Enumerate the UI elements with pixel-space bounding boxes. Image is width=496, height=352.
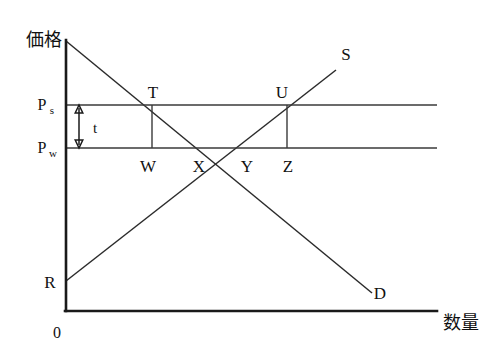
supply-curve-label: S: [341, 45, 350, 64]
tax-arrow: [75, 105, 83, 148]
price-label-pw-subscript: w: [49, 147, 57, 159]
point-label-z: Z: [283, 157, 293, 176]
supply-demand-diagram: 価格 数量 0 P s P w t D S T U R W X Y Z: [0, 0, 496, 352]
diagram-canvas: 価格 数量 0 P s P w t D S T U R W X Y Z: [0, 0, 496, 352]
point-label-u: U: [276, 83, 288, 102]
point-label-y: Y: [241, 157, 253, 176]
price-label-ps: P s: [38, 96, 55, 116]
price-label-pw: P w: [38, 139, 57, 159]
demand-curve-label: D: [374, 284, 386, 303]
point-label-r: R: [44, 273, 56, 292]
demand-curve: [66, 41, 372, 293]
point-label-w: W: [140, 157, 157, 176]
x-axis-label: 数量: [443, 312, 479, 333]
point-label-t: T: [148, 83, 159, 102]
origin-label: 0: [53, 324, 61, 341]
point-label-x: X: [193, 157, 205, 176]
price-label-ps-subscript: s: [50, 104, 54, 116]
tax-label: t: [93, 120, 98, 136]
price-label-ps-symbol: P: [38, 96, 47, 113]
price-label-pw-symbol: P: [38, 139, 47, 156]
y-axis-label: 価格: [26, 29, 62, 50]
